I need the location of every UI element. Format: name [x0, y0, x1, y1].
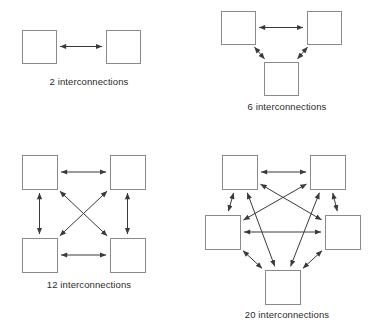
node-box [266, 271, 301, 305]
node-box [206, 216, 241, 250]
connection-arrow [303, 251, 322, 269]
connection-arrow [254, 47, 264, 59]
node-box [326, 216, 361, 250]
connection-arrow [247, 193, 274, 267]
node-box [111, 239, 146, 273]
node-box [308, 12, 342, 45]
nodes-group [23, 12, 361, 305]
caption-panel-6: 6 interconnections [198, 101, 376, 112]
interconnection-figure: 2 interconnections 6 interconnections 12… [0, 0, 376, 334]
caption-panel-2: 2 interconnections [0, 76, 178, 87]
node-box [311, 156, 346, 190]
node-box [23, 239, 58, 273]
node-box [222, 12, 256, 45]
connection-arrow [243, 251, 262, 269]
node-box [223, 156, 258, 190]
node-box [265, 63, 299, 96]
node-box [111, 156, 146, 190]
node-box [23, 156, 58, 190]
connection-arrow [297, 47, 307, 59]
node-box [23, 31, 57, 64]
node-box [107, 31, 141, 64]
connection-arrow [228, 193, 233, 211]
connection-arrow [333, 193, 338, 211]
caption-panel-12: 12 interconnections [0, 279, 178, 290]
caption-panel-20: 20 interconnections [198, 309, 376, 320]
